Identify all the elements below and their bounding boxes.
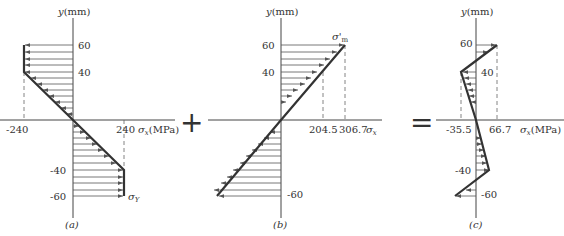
plus-operator: +: [180, 106, 203, 139]
panel-b: y(mm) 60 40 -60 204.5 306.7 σx σ'm (b): [208, 6, 382, 230]
x-axis-label: σx(MPa): [520, 124, 561, 137]
panel-c: y(mm) 60 40 -40 -60 -35.5 66.7 σx(MPa) (…: [436, 6, 564, 230]
panel-a: yy(mm)(mm) 60 40 -40 -60 -240 240 σx(MPa…: [0, 6, 179, 230]
tick-306-7: 306.7: [339, 124, 368, 135]
tick-neg60: -60: [50, 191, 66, 202]
stress-diagram: yy(mm)(mm) 60 40 -40 -60 -240 240 σx(MPa…: [0, 0, 564, 236]
tick-204-5: 204.5: [309, 124, 338, 135]
tick-neg35-5: -35.5: [446, 124, 472, 135]
tick-66-7: 66.7: [489, 124, 511, 135]
x-axis-label: σx: [366, 124, 377, 137]
tick-60: 60: [78, 40, 91, 51]
x-axis-label: σx(MPa): [138, 124, 179, 137]
tick-neg40: -40: [455, 165, 471, 176]
caption-a: (a): [65, 219, 79, 230]
equals-operator: =: [410, 106, 433, 139]
tick-neg40: -40: [50, 165, 66, 176]
y-axis-label: y(mm): [460, 6, 494, 17]
tick-neg240: -240: [6, 124, 28, 135]
caption-c: (c): [469, 219, 483, 230]
caption-b: (b): [273, 219, 287, 230]
max-stress-label: σ'm: [332, 31, 349, 44]
tick-40: 40: [481, 67, 494, 78]
stress-arrows-upper: [281, 45, 344, 102]
tick-neg60: -60: [481, 189, 497, 200]
tick-240: 240: [116, 124, 135, 135]
y-axis-label: y(mm): [265, 6, 299, 17]
tick-40: 40: [262, 67, 275, 78]
tick-neg60: -60: [287, 189, 303, 200]
y-axis-label: yy(mm)(mm): [57, 6, 91, 17]
yield-stress-label: σY: [128, 191, 141, 204]
tick-60: 60: [460, 38, 473, 49]
tick-40: 40: [78, 67, 91, 78]
tick-60: 60: [262, 40, 275, 51]
